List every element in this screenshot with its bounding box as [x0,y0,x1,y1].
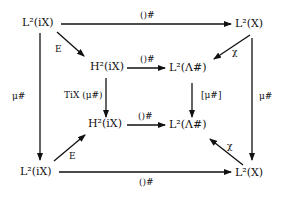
node-mid-bottom-left: H²(iX) [88,118,122,129]
label-bottom: ()# [139,178,154,187]
label-inner-bottom: ()# [138,112,153,121]
commutative-diagram: L²(iX) L²(X) H²(iX) L²(Λ#) H²(iX) L²(Λ#)… [0,0,284,197]
node-bottom-right: L²(X) [235,167,263,178]
label-left: μ# [12,92,25,101]
label-diag-top-left: E [55,45,62,54]
label-diag-bottom-left: E [69,152,76,161]
label-top: ()# [140,11,155,20]
node-top-left: L²(iX) [22,17,54,28]
node-top-right: L²(X) [235,18,263,29]
label-inner-right: [μ#] [201,91,221,100]
node-mid-top-right: L²(Λ#) [169,62,206,73]
label-inner-left: TiX (μ#) [64,91,103,100]
label-inner-top: ()# [140,55,155,64]
node-mid-top-left: H²(iX) [90,61,124,72]
node-mid-bottom-right: L²(Λ#) [169,119,206,130]
node-bottom-left: L²(iX) [20,166,52,177]
label-diag-bottom-right: χ [227,142,232,151]
label-right: μ# [259,92,272,101]
label-diag-top-right: χ [232,48,237,57]
